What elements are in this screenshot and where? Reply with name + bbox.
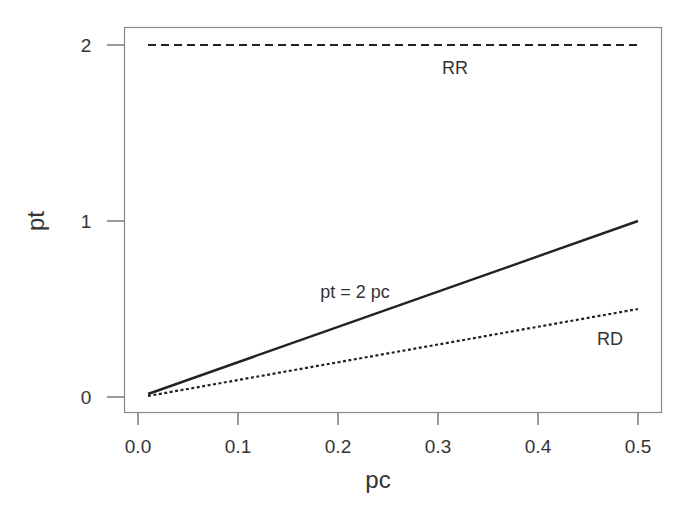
y-axis — [107, 45, 124, 397]
series-pt-2pc-line — [148, 221, 638, 394]
chart: 2 1 0 0.0 0.1 0.2 0.3 0.4 0.5 pc pt RR p… — [0, 0, 693, 517]
x-tick-label: 0.2 — [325, 436, 351, 457]
series-rd-line — [148, 309, 638, 396]
x-tick-label: 0.5 — [625, 436, 651, 457]
y-tick-label: 1 — [81, 211, 92, 232]
y-axis-title: pt — [22, 211, 49, 231]
x-tick-label: 0.4 — [525, 436, 552, 457]
x-tick-label: 0.3 — [425, 436, 451, 457]
rd-annotation: RD — [597, 329, 623, 349]
rr-annotation: RR — [442, 58, 468, 78]
x-tick-label: 0.0 — [125, 436, 151, 457]
plot-frame — [125, 28, 662, 413]
x-axis-title: pc — [365, 466, 390, 493]
x-tick-label: 0.1 — [225, 436, 251, 457]
pt-eq-annotation: pt = 2 pc — [320, 282, 390, 302]
x-axis — [138, 413, 638, 425]
y-tick-label: 0 — [81, 387, 92, 408]
y-tick-label: 2 — [81, 35, 92, 56]
